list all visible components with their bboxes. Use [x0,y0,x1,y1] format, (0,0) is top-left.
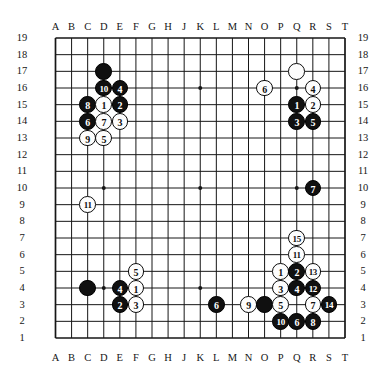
star-point [198,286,202,290]
column-label-m-bottom: M [225,352,239,364]
stone-move-number: 10 [96,84,111,94]
column-label-j-top: J [177,21,191,33]
column-label-b-top: B [65,21,79,33]
row-label-8-left: 8 [13,215,31,227]
column-label-j-bottom: J [177,352,191,364]
row-label-2-left: 2 [13,315,31,327]
stone-move-number: 6 [257,84,272,95]
go-board-grid [0,0,385,386]
row-label-4-right: 4 [354,282,372,294]
stone-black-E3: 2 [112,296,129,313]
stone-white-R3: 7 [305,296,322,313]
star-point [102,186,106,190]
row-label-17-right: 17 [354,65,372,77]
row-label-12-left: 12 [13,149,31,161]
row-label-2-right: 2 [354,315,372,327]
stone-move-number: 7 [306,300,321,311]
row-label-16-left: 16 [13,82,31,94]
row-label-1-right: 1 [354,332,372,344]
column-label-e-bottom: E [113,352,127,364]
stone-black-O3 [256,296,273,313]
row-label-16-right: 16 [354,82,372,94]
row-label-15-left: 15 [13,99,31,111]
stone-move-number: 2 [113,100,128,111]
row-label-3-left: 3 [13,299,31,311]
star-point [198,86,202,90]
stone-white-E14: 3 [112,113,129,130]
column-label-k-bottom: K [193,352,207,364]
stone-white-R5: 13 [305,263,322,280]
star-point [295,186,299,190]
stone-black-R10: 7 [305,180,322,197]
column-label-d-bottom: D [97,352,111,364]
stone-white-N3: 9 [240,296,257,313]
stone-move-number: 2 [306,100,321,111]
stone-move-number: 4 [289,284,304,295]
column-label-k-top: K [193,21,207,33]
stone-move-number: 6 [209,300,224,311]
row-label-10-right: 10 [354,182,372,194]
column-label-c-bottom: C [81,352,95,364]
column-label-c-top: C [81,21,95,33]
row-label-7-left: 7 [13,232,31,244]
stone-move-number: 15 [289,234,304,244]
stone-white-Q6: 11 [288,246,305,263]
row-label-19-left: 19 [13,32,31,44]
stone-black-Q14: 3 [288,113,305,130]
row-label-8-right: 8 [354,215,372,227]
row-label-18-left: 18 [13,49,31,61]
row-label-13-right: 13 [354,132,372,144]
stone-black-E15: 2 [112,96,129,113]
stone-move-number: 1 [273,267,288,278]
column-label-s-top: S [322,21,336,33]
row-label-4-left: 4 [13,282,31,294]
row-label-17-left: 17 [13,65,31,77]
stone-black-E4: 4 [112,280,129,297]
stone-black-L3: 6 [208,296,225,313]
stone-white-C9: 11 [79,196,96,213]
stone-move-number: 11 [80,200,95,210]
column-label-q-top: Q [290,21,304,33]
row-label-10-left: 10 [13,182,31,194]
stone-black-E16: 4 [112,80,129,97]
stone-move-number: 3 [289,117,304,128]
row-label-19-right: 19 [354,32,372,44]
row-label-9-right: 9 [354,199,372,211]
column-label-f-top: F [129,21,143,33]
stone-move-number: 2 [113,300,128,311]
stone-white-F3: 3 [128,296,145,313]
column-label-a-bottom: A [49,352,63,364]
stone-move-number: 1 [289,100,304,111]
column-label-o-bottom: O [258,352,272,364]
stone-black-D17 [95,63,112,80]
stone-move-number: 11 [289,250,304,260]
row-label-1-left: 1 [13,332,31,344]
row-label-7-right: 7 [354,232,372,244]
column-label-l-bottom: L [209,352,223,364]
stone-move-number: 8 [306,317,321,328]
stone-white-D14: 7 [95,113,112,130]
stone-move-number: 6 [289,317,304,328]
stone-white-R16: 4 [305,80,322,97]
column-label-s-bottom: S [322,352,336,364]
row-label-14-left: 14 [13,115,31,127]
column-label-m-top: M [225,21,239,33]
stone-move-number: 1 [129,284,144,295]
stone-white-P4: 3 [272,280,289,297]
column-label-h-top: H [161,21,175,33]
column-label-l-top: L [209,21,223,33]
stone-move-number: 6 [80,117,95,128]
column-label-t-bottom: T [338,352,352,364]
column-label-q-bottom: Q [290,352,304,364]
stone-move-number: 9 [80,134,95,145]
stone-black-R14: 5 [305,113,322,130]
column-label-r-top: R [306,21,320,33]
column-label-g-bottom: G [145,352,159,364]
row-label-13-left: 13 [13,132,31,144]
stone-move-number: 2 [289,267,304,278]
stone-white-C13: 9 [79,130,96,147]
column-label-n-top: N [242,21,256,33]
row-label-5-right: 5 [354,265,372,277]
stone-black-P2: 10 [272,313,289,330]
column-label-f-bottom: F [129,352,143,364]
